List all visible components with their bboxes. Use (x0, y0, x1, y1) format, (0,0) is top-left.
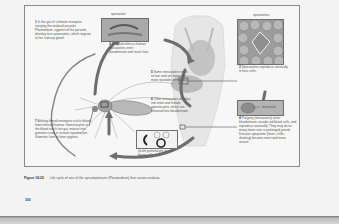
step-4-text: 4 Progeny (merozoites) enter bloodstream… (239, 116, 297, 144)
step-6-text: 6 Other merozoites develop into male and… (151, 97, 193, 113)
sporozoite-label: sporozoite (111, 12, 126, 16)
step-2-text: 2 Mosquito bites a human; sporozoites en… (109, 42, 151, 54)
gametocyte-icon (137, 131, 177, 148)
figure-number: Figure 18.20 (24, 176, 44, 180)
gametocyte-label: (male gametocyte in red blood cell) (138, 149, 178, 157)
step-7-text: 7 A biting female mosquito sucks blood f… (35, 119, 93, 139)
figure-caption: Figure 18.20Life cycle of one of the api… (24, 176, 160, 180)
step-1-text: 1 In the gut of a female mosquito carryi… (35, 20, 93, 40)
figure-caption-text: Life cycle of one of the apicomplexans (… (50, 176, 161, 180)
sporozoites-label: sporozoites (253, 13, 269, 17)
figure-frame: sporozoite sporozoites 3 Sporozoites rep… (24, 5, 300, 167)
sporozoite-inset (101, 18, 149, 42)
step-3-text: 3 Sporozoites reproduce asexually in liv… (239, 65, 289, 73)
gametocyte-inset (136, 130, 178, 149)
page-edge-shadow (0, 216, 339, 224)
liver-cells-icon (238, 20, 283, 64)
merozoite-label: merozoite (262, 105, 276, 109)
step-5-text: 5 Some merozoites return to liver and ar… (151, 70, 191, 82)
textbook-page: sporozoite sporozoites 3 Sporozoites rep… (0, 0, 339, 218)
page-number: 300 (25, 198, 31, 202)
sporozoite-icon (102, 19, 148, 41)
red-blood-cell-icon (238, 101, 283, 115)
liver-cells-inset (237, 19, 284, 65)
merozoite-inset: merozoite (237, 100, 284, 116)
